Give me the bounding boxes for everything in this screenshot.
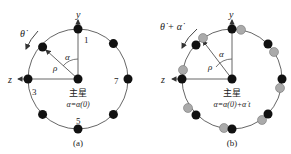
- z-axis-label: z: [160, 74, 165, 85]
- node-label-3: 3: [32, 87, 37, 97]
- panel-a: y z θ̇ α ρ 1 3 5 7 主星 α=α(0) (a): [7, 9, 133, 148]
- rho-vector: [203, 41, 232, 79]
- chief-star: [228, 75, 237, 84]
- panel-b: y z θ̇ + α̇ α ρ 主星 α=α(0)+α̇ t (b): [160, 9, 287, 148]
- equation: α=α(0): [66, 100, 89, 109]
- node-label-5: 5: [76, 116, 81, 126]
- rho-vector: [46, 50, 78, 79]
- y-axis-label: y: [75, 9, 81, 20]
- rate-label: θ̇ + α̇: [160, 21, 185, 32]
- chief-label: 主星: [223, 87, 241, 98]
- formation-diagram: y z θ̇ α ρ 1 3 5 7 主星 α=α(0) (a): [0, 0, 291, 154]
- node-label-7: 7: [114, 76, 119, 86]
- alpha-arc: [216, 59, 232, 67]
- alpha-label: α: [219, 49, 224, 59]
- rho-label: ρ: [207, 62, 213, 72]
- rotation-arrow-icon: [26, 31, 38, 49]
- caption-b: (b): [227, 138, 238, 148]
- caption-a: (a): [73, 138, 83, 148]
- chief-star: [74, 75, 83, 84]
- y-axis-label: y: [228, 9, 234, 20]
- chief-label: 主星: [69, 87, 87, 98]
- alpha-label: α: [65, 52, 70, 62]
- z-axis-label: z: [7, 74, 12, 85]
- node-label-1: 1: [84, 35, 89, 45]
- rho-label: ρ: [52, 63, 58, 73]
- rate-label: θ̇: [20, 28, 28, 39]
- equation: α=α(0)+α̇ t: [214, 100, 252, 109]
